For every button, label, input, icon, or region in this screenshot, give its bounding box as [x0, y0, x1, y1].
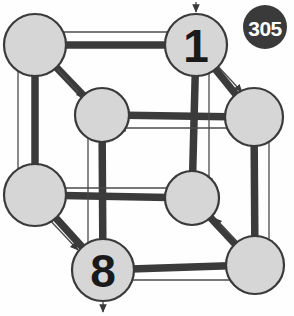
- graph-node[interactable]: 1: [165, 14, 227, 76]
- graph-node[interactable]: [226, 236, 284, 294]
- graph-edge: [208, 215, 237, 246]
- graph-node[interactable]: [4, 14, 66, 76]
- node-circle: [4, 14, 66, 76]
- node-label: 1: [183, 20, 209, 72]
- node-circle: [225, 88, 283, 146]
- graph-edge: [54, 65, 85, 97]
- node-circle: [75, 88, 129, 142]
- node-circle: [165, 171, 219, 225]
- badge-layer: 305: [243, 5, 287, 49]
- node-label: 8: [90, 245, 116, 297]
- badge-label: 305: [248, 17, 282, 40]
- node-circle: [226, 236, 284, 294]
- figure-container: 18 305: [0, 0, 294, 316]
- graph-edge: [254, 143, 255, 239]
- graph-node[interactable]: [225, 88, 283, 146]
- graph-edge: [102, 139, 103, 242]
- graph-edge: [126, 115, 228, 116]
- graph-node[interactable]: [75, 88, 129, 142]
- nodes-layer: 18: [4, 14, 284, 301]
- cube-graph-diagram: 18 305: [0, 0, 294, 316]
- graph-edge: [131, 266, 229, 269]
- edges-layer: [35, 45, 255, 269]
- graph-node[interactable]: [165, 171, 219, 225]
- graph-edge: [63, 196, 168, 198]
- graph-edge: [54, 216, 84, 250]
- graph-edge: [214, 67, 238, 97]
- graph-node[interactable]: 8: [72, 239, 134, 301]
- graph-node[interactable]: [4, 164, 66, 226]
- direction-arrow: [55, 67, 84, 98]
- graph-edge: [193, 73, 196, 174]
- node-circle: [4, 164, 66, 226]
